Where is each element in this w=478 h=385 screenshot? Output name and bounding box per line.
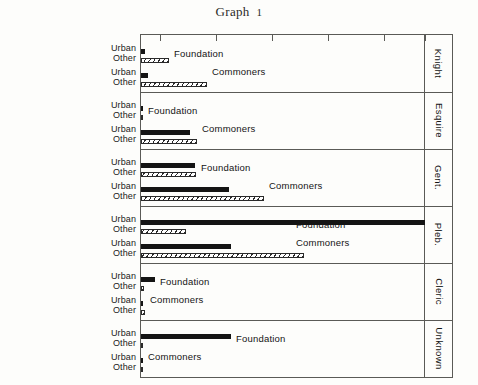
row-label-urban: Urban: [0, 100, 136, 110]
panel-separator: [140, 149, 453, 150]
row-label-other: Other: [0, 167, 136, 177]
group-label-foundation: Foundation: [296, 219, 346, 230]
group-label-commoners: Commoners: [148, 351, 202, 362]
category-label-esquire: Esquire: [425, 92, 453, 149]
panel-separator: [140, 206, 453, 207]
row-label-other: Other: [0, 281, 136, 291]
group-label-commoners: Commoners: [202, 123, 256, 134]
panel-separator: [140, 263, 453, 264]
panel-unknown: UrbanOtherUrbanOtherFoundationCommoners: [0, 320, 478, 377]
panel-pleb: UrbanOtherUrbanOtherFoundationCommoners: [0, 206, 478, 263]
row-label-other: Other: [0, 191, 136, 201]
group-label-commoners: Commoners: [212, 66, 266, 77]
chart-title-number: 1: [257, 6, 263, 18]
bar-unknown-commoners-other: [141, 367, 143, 372]
bar-gent-commoners-urban: [141, 187, 229, 192]
bar-cleric-foundation-other: [141, 286, 144, 291]
row-label-other: Other: [0, 305, 136, 315]
category-label-text: Unknown: [434, 327, 445, 369]
row-label-other: Other: [0, 362, 136, 372]
bar-esquire-commoners-other: [141, 139, 197, 144]
group-label-foundation: Foundation: [148, 105, 198, 116]
panel-knight: UrbanOtherUrbanOtherFoundationCommoners: [0, 35, 478, 92]
bar-knight-commoners-other: [141, 82, 207, 87]
category-label-pleb: Pleb.: [425, 206, 453, 263]
bar-esquire-foundation-urban: [141, 106, 143, 111]
panel-esquire: UrbanOtherUrbanOtherFoundationCommoners: [0, 92, 478, 149]
bar-cleric-commoners-other: [141, 310, 145, 315]
row-label-other: Other: [0, 77, 136, 87]
bar-esquire-commoners-urban: [141, 130, 190, 135]
row-label-urban: Urban: [0, 157, 136, 167]
bar-unknown-foundation-other: [141, 343, 143, 348]
group-label-foundation: Foundation: [201, 162, 251, 173]
row-label-other: Other: [0, 224, 136, 234]
row-label-other: Other: [0, 338, 136, 348]
bar-cleric-foundation-urban: [141, 277, 155, 282]
category-label-text: Knight: [434, 49, 445, 78]
panel-separator: [140, 320, 453, 321]
row-label-urban: Urban: [0, 181, 136, 191]
bar-pleb-foundation-other: [141, 229, 186, 234]
row-label-urban: Urban: [0, 67, 136, 77]
bar-knight-foundation-other: [141, 58, 169, 63]
bar-pleb-commoners-other: [141, 253, 304, 258]
group-label-commoners: Commoners: [150, 294, 204, 305]
panel-cleric: UrbanOtherUrbanOtherFoundationCommoners: [0, 263, 478, 320]
bar-pleb-foundation-urban: [141, 220, 425, 225]
category-label-text: Cleric: [434, 278, 445, 305]
row-label-other: Other: [0, 110, 136, 120]
panel-gent: UrbanOtherUrbanOtherFoundationCommoners: [0, 149, 478, 206]
category-label-text: Esquire: [434, 103, 445, 138]
category-label-unknown: Unknown: [425, 320, 453, 377]
chart-title: Graph1: [0, 4, 478, 20]
bar-gent-commoners-other: [141, 196, 264, 201]
bar-knight-commoners-urban: [141, 73, 148, 78]
row-label-urban: Urban: [0, 214, 136, 224]
bar-gent-foundation-other: [141, 172, 196, 177]
category-label-text: Gent.: [434, 165, 445, 190]
row-label-urban: Urban: [0, 124, 136, 134]
row-label-urban: Urban: [0, 328, 136, 338]
row-label-urban: Urban: [0, 271, 136, 281]
group-label-foundation: Foundation: [160, 276, 210, 287]
chart-title-text: Graph: [216, 4, 250, 19]
bar-unknown-foundation-urban: [141, 334, 231, 339]
bar-gent-foundation-urban: [141, 163, 195, 168]
row-label-urban: Urban: [0, 238, 136, 248]
panel-separator: [140, 92, 453, 93]
bar-unknown-commoners-urban: [141, 358, 143, 363]
bar-cleric-commoners-urban: [141, 301, 143, 306]
bar-pleb-commoners-urban: [141, 244, 231, 249]
category-label-knight: Knight: [425, 35, 453, 92]
group-label-foundation: Foundation: [174, 48, 224, 59]
group-label-foundation: Foundation: [236, 333, 286, 344]
row-label-urban: Urban: [0, 352, 136, 362]
row-label-other: Other: [0, 134, 136, 144]
row-label-urban: Urban: [0, 295, 136, 305]
category-label-text: Pleb.: [434, 223, 445, 247]
row-label-other: Other: [0, 248, 136, 258]
category-label-gent: Gent.: [425, 149, 453, 206]
bar-esquire-foundation-other: [141, 115, 143, 120]
category-label-cleric: Cleric: [425, 263, 453, 320]
group-label-commoners: Commoners: [269, 180, 323, 191]
row-label-urban: Urban: [0, 43, 136, 53]
bar-knight-foundation-urban: [141, 49, 145, 54]
group-label-commoners: Commoners: [296, 237, 350, 248]
row-label-other: Other: [0, 53, 136, 63]
